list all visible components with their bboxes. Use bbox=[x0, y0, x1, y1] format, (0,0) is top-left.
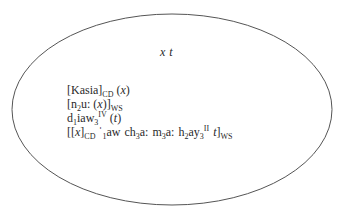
text-segment: [Kasia] bbox=[67, 83, 102, 97]
subscript: CD bbox=[84, 132, 95, 141]
condition-line-4: [[x]CD ˈ1awch3a:m3a:h2ay3IIt]WS bbox=[67, 125, 232, 139]
subscript: 1 bbox=[73, 118, 77, 127]
subscript: WS bbox=[220, 132, 232, 141]
text-segment: ch bbox=[124, 125, 135, 139]
header-variables: x t bbox=[160, 45, 173, 60]
condition-line-2: [n2u: (x)]WS bbox=[67, 97, 232, 111]
text-segment: a: bbox=[140, 125, 149, 139]
subscript: WS bbox=[111, 104, 123, 113]
subscript: 2 bbox=[184, 132, 188, 141]
text-segment: u: ( bbox=[81, 97, 97, 111]
condition-line-3: d1iaw3IV (t) bbox=[67, 111, 232, 125]
text-segment: iaw bbox=[77, 111, 94, 125]
text-segment: [n bbox=[67, 97, 77, 111]
subscript: 3 bbox=[162, 132, 166, 141]
header-text: x t bbox=[160, 45, 173, 59]
subscript: 1 bbox=[102, 132, 106, 141]
condition-line-1: [Kasia]CD (x) bbox=[67, 83, 232, 97]
superscript: II bbox=[204, 124, 209, 133]
text-segment: )] bbox=[103, 97, 111, 111]
subscript: CD bbox=[102, 90, 113, 99]
subscript: 3 bbox=[200, 132, 204, 141]
text-segment: ) bbox=[117, 111, 121, 125]
text-segment: aw bbox=[106, 125, 120, 139]
text-segment: a: bbox=[166, 125, 175, 139]
text-segment: ay bbox=[188, 125, 199, 139]
text-segment: ( bbox=[107, 111, 114, 125]
subscript: 2 bbox=[77, 104, 81, 113]
text-segment: m bbox=[152, 125, 161, 139]
subscript: 3 bbox=[94, 118, 98, 127]
condition-list: [Kasia]CD (x) [n2u: (x)]WS d1iaw3IV (t) … bbox=[67, 83, 232, 139]
superscript: IV bbox=[98, 110, 106, 119]
text-segment: [[ bbox=[67, 125, 75, 139]
text-segment: ) bbox=[126, 83, 130, 97]
subscript: 3 bbox=[136, 132, 140, 141]
